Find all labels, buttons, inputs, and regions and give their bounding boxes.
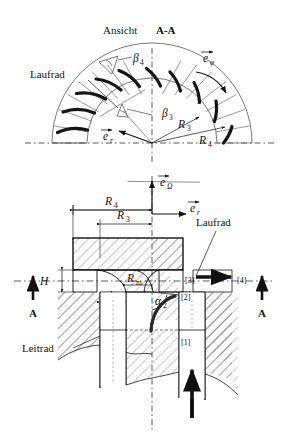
r4-symbol: R — [198, 134, 206, 146]
beta4-subscript: 4 — [140, 58, 144, 67]
title-section-label: A-A — [156, 24, 176, 36]
drawing-canvas: Ansicht A-A — [0, 0, 289, 439]
section-label-right: A — [258, 307, 266, 319]
e-phi-symbol: e — [203, 52, 208, 64]
r4-symbol-section: R — [104, 195, 112, 207]
e-r-symbol-top: e — [103, 130, 108, 142]
section-stator-label: Leitrad — [22, 342, 54, 354]
r3-symbol-section: R — [116, 209, 124, 221]
e-omega-symbol: e — [160, 176, 165, 188]
section-impeller-label: Laufrad — [196, 216, 231, 228]
top-view-impeller-label: Laufrad — [30, 68, 65, 80]
rm-symbol: R — [126, 272, 134, 284]
r4-subscript: 4 — [208, 140, 212, 149]
r3-subscript-section: 3 — [126, 215, 130, 224]
e-phi-subscript: φ — [210, 58, 214, 67]
beta4-symbol: β — [132, 52, 139, 65]
impeller-disc-body-right — [152, 238, 183, 270]
technical-drawing-figure: Ansicht A-A — [0, 0, 289, 439]
title-prefix: Ansicht — [103, 24, 137, 36]
r3-symbol: R — [177, 118, 185, 130]
station-4-label: [4] — [237, 276, 247, 285]
beta3-subscript: 3 — [169, 113, 173, 122]
r3-subscript: 3 — [187, 124, 191, 133]
e-omega-subscript: Ω — [167, 182, 173, 191]
section-label-left: A — [29, 307, 37, 319]
rm-subscript: m — [136, 278, 142, 287]
e-r-symbol-section: e — [190, 202, 195, 214]
station-2-label-top: [2] — [181, 293, 191, 302]
e-r-subscript-top: r — [110, 136, 113, 145]
beta3-symbol: β — [161, 107, 168, 120]
station-1-label-top: [1] — [181, 338, 191, 347]
